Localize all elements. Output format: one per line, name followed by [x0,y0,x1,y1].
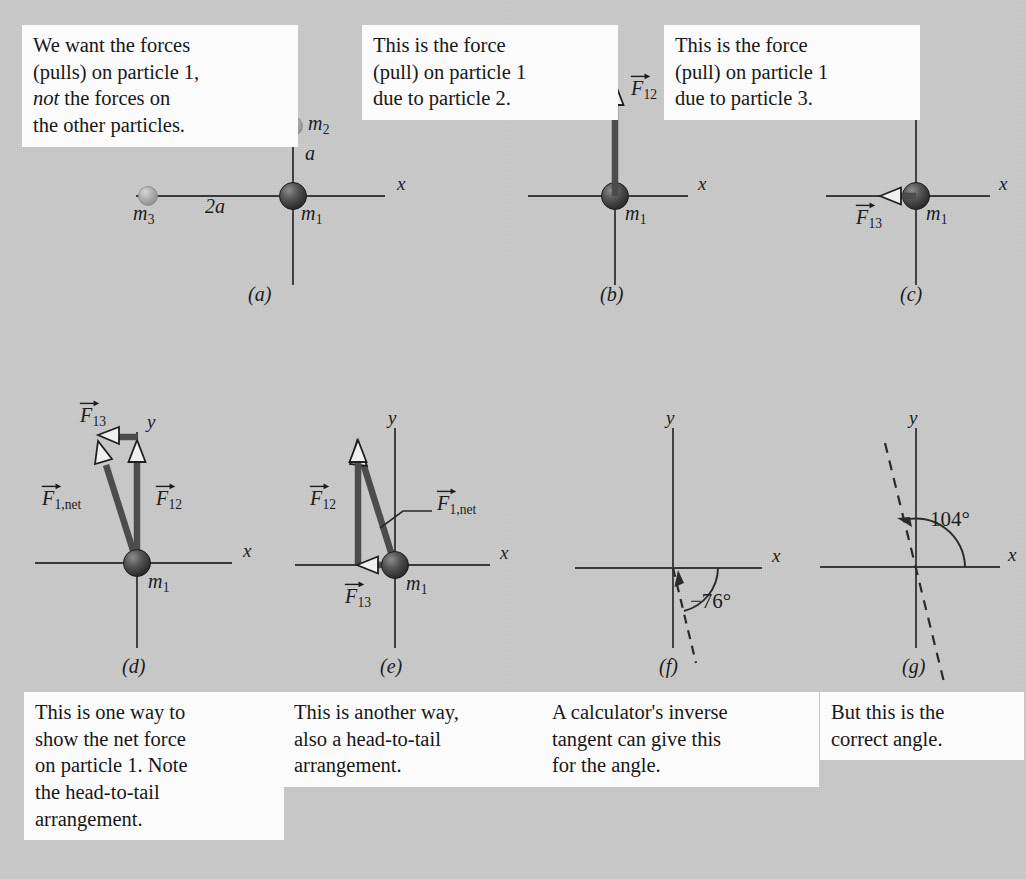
callout-panel-b: This is the force (pull) on particle 1 d… [362,25,618,120]
m2-subscript: 2 [323,122,330,137]
callout-d-line1: This is one way to [35,699,273,726]
callout-d-line2: show the net force [35,726,273,753]
panel-d-particle-m1 [124,550,151,577]
panel-g-angle-label: 104° [930,507,970,531]
panel-label-e: (e) [380,655,402,678]
panel-label-c: (c) [900,283,922,306]
callout-a-line2: (pulls) on particle 1, [33,59,287,86]
callout-e-line3: arrangement. [294,752,530,779]
panel-c-x-axis-label: x [998,173,1008,194]
panel-c-mass-label-m1: m1 [926,202,947,225]
F13-subscript-d: 13 [92,414,106,429]
callout-a-line1: We want the forces [33,32,287,59]
callout-b-line3: due to particle 2. [373,85,607,112]
m1-subscript-e: 1 [421,582,428,597]
callout-e-line1: This is another way, [294,699,530,726]
panel-f-axes [575,428,762,648]
panel-e-particle-m1 [382,552,409,579]
callout-a-line4: the other particles. [33,112,287,139]
vector-overbar-arrow [344,579,365,589]
m1-symbol-b: m [625,202,639,224]
callout-a-emphasis: not [33,87,59,109]
panel-label-g: (g) [902,655,925,678]
panel-e-mass-label-m1: m1 [406,572,427,595]
panel-d-vector-F13 [98,427,137,444]
panel-b-x-axis-label: x [697,173,707,194]
m1-subscript-d: 1 [163,580,170,595]
F12-subscript-d: 12 [168,497,182,512]
F12-subscript-b: 12 [643,87,657,102]
vector-overbar-arrow [855,200,876,210]
panel-g-x-axis-label: x [1007,544,1017,565]
callout-a-line3: not the forces on [33,85,287,112]
m1-symbol: m [301,202,315,224]
m1-subscript: 1 [316,212,323,227]
callout-panel-f: A calculator's inverse tangent can give … [541,692,819,787]
panel-label-a: (a) [248,283,271,306]
panel-f-angle-label: −76° [690,589,731,613]
panel-e-vector-label-F1net: F1,net [437,492,476,515]
callout-a-line3-rest: the forces on [59,87,170,109]
callout-panel-d: This is one way to show the net force on… [24,692,284,840]
panel-g-dashed-direction [885,443,944,682]
callout-d-line5: arrangement. [35,806,273,833]
panel-d-x-axis-label: x [242,540,252,561]
m1-subscript-b: 1 [640,212,647,227]
panel-e-leader-line [380,511,432,528]
callout-g-line1: But this is the [831,699,1013,726]
panel-f-x-axis-label: x [771,545,781,566]
callout-panel-c: This is the force (pull) on particle 1 d… [664,25,920,120]
panel-e-vector-F12 [350,440,367,565]
panel-d-vector-label-F13: F13 [80,404,106,427]
panel-label-b: (b) [600,283,623,306]
callout-c-line2: (pull) on particle 1 [675,59,909,86]
callout-c-line1: This is the force [675,32,909,59]
panel-d-vector-label-F1net: F1,net [42,487,81,510]
m1-symbol-e: m [406,572,420,594]
callout-panel-a: We want the forces (pulls) on particle 1… [22,25,298,147]
panel-a-mass-label-m3: m3 [133,202,154,225]
vector-overbar-arrow [155,481,176,491]
vector-overbar-arrow [630,71,651,81]
vector-overbar-arrow [436,486,457,496]
F13-subscript-e: 13 [357,595,371,610]
distance-a-text: a [305,142,315,164]
callout-f-line2: tangent can give this [552,726,808,753]
m2-symbol: m [308,112,322,134]
panel-d-axes [35,432,232,648]
callout-b-line2: (pull) on particle 1 [373,59,607,86]
F1net-subscript-d: 1,net [54,497,81,512]
m3-subscript: 3 [148,212,155,227]
panel-b-mass-label-m1: m1 [625,202,646,225]
panel-e-y-axis-label: y [386,407,397,428]
callout-c-line3: due to particle 3. [675,85,909,112]
m1-symbol-d: m [148,570,162,592]
F13-subscript-c: 13 [868,216,882,231]
m1-symbol-c: m [926,202,940,224]
panel-d-vector-label-F12: F12 [156,487,182,510]
callout-f-line3: for the angle. [552,752,808,779]
callout-panel-g: But this is the correct angle. [820,692,1024,760]
callout-g-line2: correct angle. [831,726,1013,753]
callout-f-line1: A calculator's inverse [552,699,808,726]
distance-2a-text: 2a [205,195,225,217]
panel-a-x-axis-label: x [396,173,406,194]
vector-overbar-arrow [309,481,330,491]
callout-b-line1: This is the force [373,32,607,59]
panel-label-f: (f) [659,655,678,678]
callout-d-line4: the head-to-tail [35,779,273,806]
panel-a-distance-2a: 2a [205,195,225,218]
F12-subscript-e: 12 [322,497,336,512]
panel-g-y-axis-label: y [907,407,918,428]
m1-subscript-c: 1 [941,212,948,227]
panel-e-x-axis-label: x [499,542,509,563]
m3-symbol: m [133,202,147,224]
vector-overbar-arrow [79,398,100,408]
callout-panel-e: This is another way, also a head-to-tail… [283,692,541,787]
panel-g-axes [820,428,1000,648]
panel-e-axes [295,428,490,648]
panel-label-d: (d) [122,655,145,678]
callout-e-line2: also a head-to-tail [294,726,530,753]
panel-e-vector-label-F13: F13 [345,585,371,608]
panel-e-vector-label-F12: F12 [310,487,336,510]
